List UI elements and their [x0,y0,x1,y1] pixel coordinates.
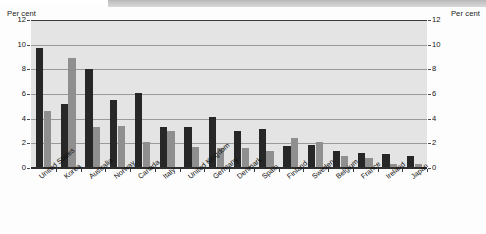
scan-artifact-strip-left [0,0,108,5]
y-tickmark-left [27,119,30,120]
y-tick-label-left: 8 [22,64,26,73]
y-tick-label-right: 6 [432,89,436,98]
bar-series-2 [44,111,51,168]
y-tickmark-right [428,69,431,70]
y-tick-label-left: 12 [18,15,26,24]
bar-series-1 [382,154,389,168]
bar-series-1 [184,127,191,168]
y-tickmark-left [27,69,30,70]
y-tickmark-right [428,119,431,120]
bar-series-2 [167,131,174,168]
bar-series-1 [407,156,414,168]
bar-series-1 [160,127,167,168]
y-tickmark-left [27,168,30,169]
y-tick-label-right: 4 [432,114,436,123]
bar-series-2 [118,126,125,168]
x-axis-category-labels: United StatesKoreaAustraliaNorwayCanadaI… [31,170,427,234]
y-tick-label-right: 0 [432,163,436,172]
y-tick-label-right: 8 [432,64,436,73]
chart-figure: Per cent Per cent 024681012 024681012 Un… [0,0,486,234]
y-tick-label-right: 12 [432,15,440,24]
bar-series-1 [36,48,43,168]
scan-artifact-strip [108,0,486,7]
y-tickmark-right [428,45,431,46]
y-tick-label-right: 10 [432,40,440,49]
right-axis-caption: Per cent [451,9,480,18]
bar-series-1 [135,93,142,168]
y-tickmark-left [27,94,30,95]
y-tickmark-right [428,143,431,144]
y-tickmark-left [27,143,30,144]
y-tick-label-left: 10 [18,40,26,49]
y-tick-label-left: 4 [22,114,26,123]
y-tickmark-left [27,20,30,21]
bar-series-1 [308,145,315,168]
bar-series-1 [358,153,365,168]
y-tickmark-left [27,45,30,46]
y-tickmark-right [428,94,431,95]
y-tick-label-left: 0 [22,163,26,172]
y-tick-label-left: 2 [22,138,26,147]
bar-series-1 [283,146,290,168]
y-tickmark-right [428,20,431,21]
bar-series-1 [85,69,92,168]
y-tick-label-left: 6 [22,89,26,98]
y-tick-label-right: 2 [432,138,436,147]
